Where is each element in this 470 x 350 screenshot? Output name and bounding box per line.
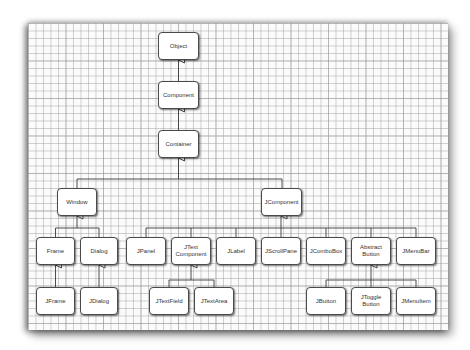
class-box-jscrollpane: JScrollPane: [261, 237, 301, 265]
class-box-jbutton: JButton: [306, 287, 346, 315]
class-box-abstractbutton: Abstract Button: [351, 237, 391, 265]
class-box-jmenubar: JMenuBar: [396, 237, 436, 265]
class-box-jcombobox: JComboBox: [306, 237, 346, 265]
class-box-jdialog: JDialog: [80, 287, 118, 315]
class-box-jtextcomponent: JText Component: [171, 237, 211, 265]
class-box-dialog: Dialog: [80, 237, 118, 265]
class-box-object: Object: [158, 32, 199, 60]
class-box-jlabel: JLabel: [216, 237, 256, 265]
class-box-jcomponent: JComponent: [261, 188, 302, 216]
class-box-jtextfield: JTextField: [149, 287, 189, 315]
class-box-container: Container: [158, 130, 199, 158]
class-box-jtogglebutton: JToggle Button: [351, 287, 391, 315]
class-box-jpanel: JPanel: [126, 237, 166, 265]
graph-paper-background: [28, 23, 448, 330]
class-box-jtextarea: JTextArea: [194, 287, 234, 315]
class-box-jmenuitem: JMenuItem: [396, 287, 436, 315]
class-box-window: Window: [57, 188, 97, 216]
class-box-jframe: JFrame: [36, 287, 75, 315]
class-box-frame: Frame: [36, 237, 75, 265]
class-box-component: Component: [158, 81, 199, 109]
